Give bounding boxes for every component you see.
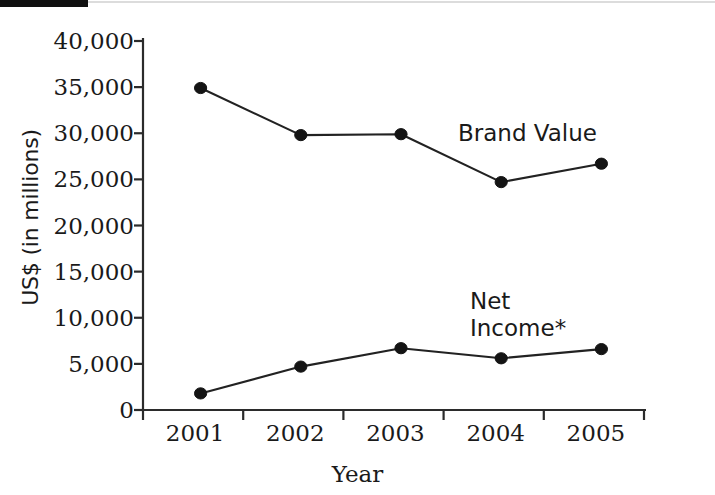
series-label-net-income: Net Income* xyxy=(470,288,566,342)
x-tick-label: 2002 xyxy=(240,422,350,445)
series-data-point xyxy=(495,353,507,364)
x-tick-label: 2004 xyxy=(441,422,551,445)
series-label-brand-value: Brand Value xyxy=(458,120,597,147)
series-data-point xyxy=(295,130,307,141)
x-axis-title: Year xyxy=(0,461,715,487)
series-data-point xyxy=(395,129,407,140)
series-data-point xyxy=(595,158,607,169)
series-data-point xyxy=(495,177,507,188)
chart-figure: US$ (in millions) 05,00010,00015,00020,0… xyxy=(0,0,715,495)
series-data-point xyxy=(295,361,307,372)
series-data-point xyxy=(595,344,607,355)
x-tick-label: 2001 xyxy=(140,422,250,445)
series-line-1 xyxy=(201,348,602,393)
x-tick-label: 2005 xyxy=(541,422,651,445)
series-data-point xyxy=(195,82,207,93)
x-tick-label: 2003 xyxy=(341,422,451,445)
series-data-point xyxy=(395,343,407,354)
series-data-point xyxy=(195,388,207,399)
